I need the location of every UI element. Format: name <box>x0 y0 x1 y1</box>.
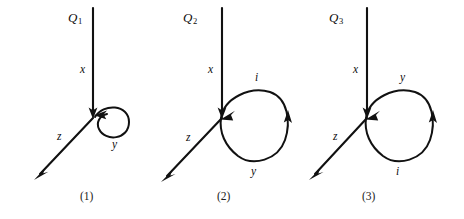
panel-1-vector-graphic <box>0 0 155 219</box>
diagram-panel-1: Q1 x z y (1) <box>0 0 155 219</box>
panel-caption-3: (3) <box>362 190 375 202</box>
z-axis-label-2: z <box>186 132 190 144</box>
loop-label-2-top: i <box>255 72 258 84</box>
charge-label-2-subscript: 2 <box>193 16 197 26</box>
charge-label-3-subscript: 3 <box>339 16 343 26</box>
z-axis-arrowhead <box>34 168 48 180</box>
z-axis-line <box>40 118 93 174</box>
x-axis-label-3: x <box>353 64 358 76</box>
z-axis-arrowhead <box>161 170 176 182</box>
loop-label-1-bottom: y <box>112 139 117 151</box>
z-axis-line <box>167 118 222 176</box>
panel-caption-2: (2) <box>217 190 230 202</box>
charge-label-3-symbol: Q <box>329 10 339 25</box>
loop-label-2-bottom: y <box>251 166 256 178</box>
panel-2-vector-graphic <box>155 0 310 219</box>
z-axis-label-3: z <box>333 131 337 143</box>
charge-label-1: Q1 <box>68 11 83 26</box>
current-loop-path <box>221 90 288 161</box>
charge-label-2-symbol: Q <box>183 10 193 25</box>
charge-label-3: Q3 <box>329 11 344 26</box>
loop-label-3-top: y <box>400 72 405 84</box>
x-axis-label-2: x <box>208 64 213 76</box>
charge-label-1-subscript: 1 <box>78 16 82 26</box>
charge-label-2: Q2 <box>183 11 198 26</box>
charge-label-1-symbol: Q <box>68 10 78 25</box>
figure-root: Q1 x z y (1) Q2 <box>0 0 464 219</box>
z-axis-line <box>315 118 367 174</box>
loop-label-3-bottom: i <box>396 166 399 178</box>
current-loop-path <box>95 107 129 137</box>
current-loop-path <box>366 90 433 161</box>
x-axis-label-1: x <box>80 64 85 76</box>
panel-caption-1: (1) <box>80 190 93 202</box>
z-axis-label-1: z <box>57 131 61 143</box>
z-axis-arrowhead <box>309 168 324 180</box>
diagram-panel-2: Q2 x z i y (2) <box>155 0 310 219</box>
diagram-panel-3: Q3 x z y i (3) <box>309 0 464 219</box>
panel-3-vector-graphic <box>309 0 464 219</box>
